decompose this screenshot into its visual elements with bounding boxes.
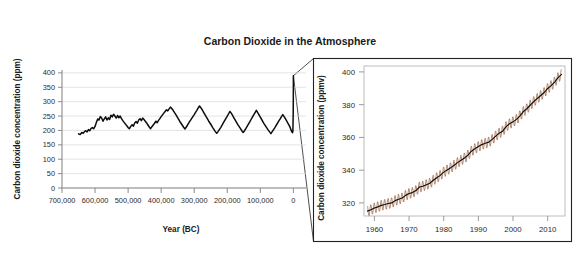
svg-text:400: 400 — [43, 68, 55, 77]
svg-text:700,000: 700,000 — [49, 196, 76, 205]
svg-text:500,000: 500,000 — [115, 196, 142, 205]
svg-text:360: 360 — [342, 133, 356, 142]
svg-text:250: 250 — [43, 112, 55, 121]
svg-text:600,000: 600,000 — [82, 196, 109, 205]
svg-text:200: 200 — [43, 126, 55, 135]
svg-text:0: 0 — [51, 184, 55, 193]
svg-text:400: 400 — [342, 68, 356, 77]
keeling-y-axis-label: Carbon dioxide concentration (ppmv) — [317, 75, 326, 221]
svg-text:1970: 1970 — [400, 225, 418, 234]
svg-text:380: 380 — [342, 101, 356, 110]
svg-text:300,000: 300,000 — [181, 196, 208, 205]
svg-text:320: 320 — [342, 199, 356, 208]
svg-text:200,000: 200,000 — [214, 196, 241, 205]
svg-text:400,000: 400,000 — [148, 196, 175, 205]
svg-text:300: 300 — [43, 97, 55, 106]
svg-text:50: 50 — [47, 169, 55, 178]
svg-text:100,000: 100,000 — [247, 196, 274, 205]
svg-text:2010: 2010 — [539, 225, 557, 234]
svg-text:2000: 2000 — [504, 225, 522, 234]
svg-text:1980: 1980 — [435, 225, 453, 234]
svg-text:1960: 1960 — [366, 225, 384, 234]
svg-text:0: 0 — [291, 196, 295, 205]
svg-text:350: 350 — [43, 83, 55, 92]
svg-text:1990: 1990 — [470, 225, 488, 234]
svg-text:340: 340 — [342, 166, 356, 175]
co2-figure: Carbon Dioxide in the Atmosphere 0501001… — [0, 0, 580, 259]
ice-core-y-axis-label: Carbon dioxide concentration (ppm) — [13, 58, 22, 199]
figure-svg: Carbon Dioxide in the Atmosphere 0501001… — [0, 0, 580, 259]
svg-text:100: 100 — [43, 155, 55, 164]
ice-core-x-axis-label: Year (BC) — [163, 225, 200, 234]
page-title: Carbon Dioxide in the Atmosphere — [204, 35, 376, 47]
svg-text:150: 150 — [43, 140, 55, 149]
